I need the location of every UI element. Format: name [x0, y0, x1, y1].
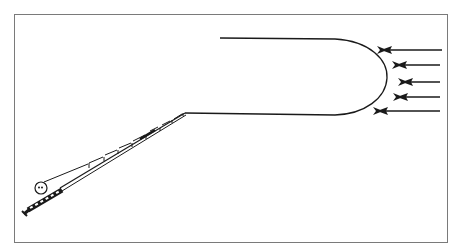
diagram-canvas: [0, 0, 460, 251]
wind-arrows: [382, 50, 442, 111]
line-loop: [185, 38, 387, 115]
reel-icon: [35, 182, 47, 194]
fishing-rod-icon: [22, 113, 186, 216]
